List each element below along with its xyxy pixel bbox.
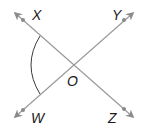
label-y: Y <box>112 7 123 23</box>
point-marker-y <box>122 18 126 22</box>
label-w: W <box>31 110 46 126</box>
label-z: Z <box>107 110 117 126</box>
label-o: O <box>67 73 78 89</box>
intersecting-lines-diagram: X Y O W Z <box>0 0 142 132</box>
point-marker-z <box>122 107 126 111</box>
point-marker-w <box>21 108 25 112</box>
label-x: X <box>31 7 42 23</box>
point-marker-x <box>21 18 25 22</box>
angle-arc-xow <box>31 36 40 94</box>
